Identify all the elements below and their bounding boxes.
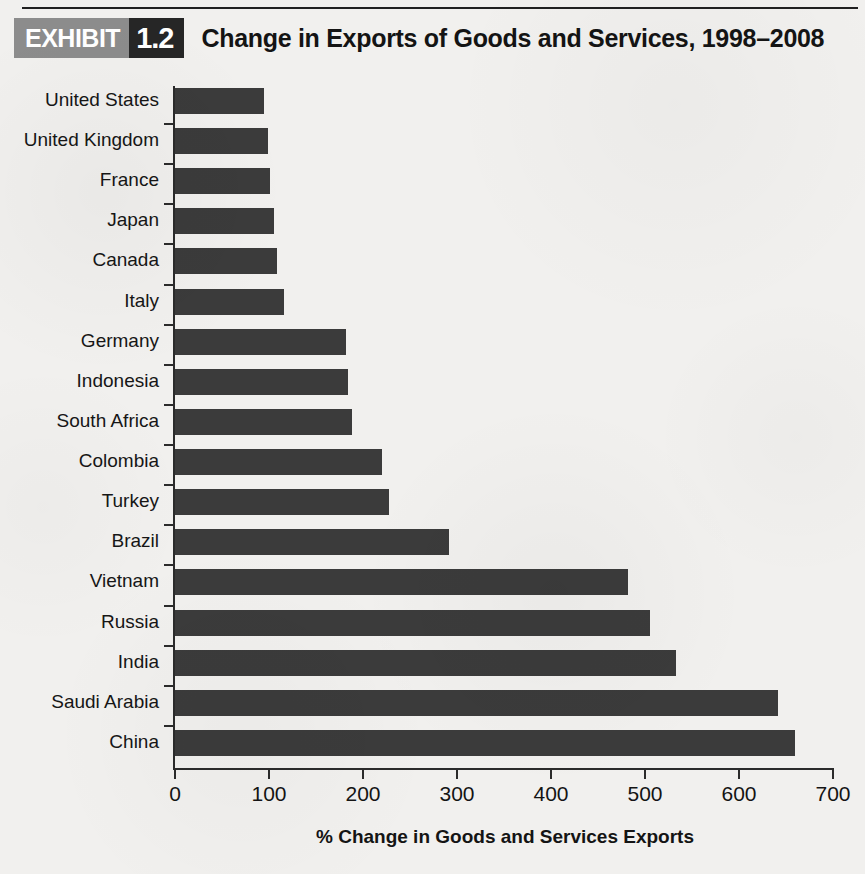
x-axis-tick bbox=[268, 768, 270, 779]
y-axis-tick bbox=[164, 484, 175, 486]
y-axis-label: France bbox=[100, 167, 159, 193]
exhibit-badge: EXHIBIT 1.2 bbox=[14, 18, 184, 58]
x-axis-tick-label: 700 bbox=[815, 782, 850, 806]
y-axis-label: Canada bbox=[92, 247, 159, 273]
y-axis-label: Russia bbox=[101, 609, 159, 635]
bar-row: United States bbox=[175, 86, 833, 126]
bar bbox=[175, 730, 795, 756]
bar-series: United StatesUnited KingdomFranceJapanCa… bbox=[175, 86, 833, 768]
x-axis-tick bbox=[738, 768, 740, 779]
chart-area: United StatesUnited KingdomFranceJapanCa… bbox=[0, 82, 865, 782]
y-axis-tick bbox=[164, 163, 175, 165]
y-axis-tick bbox=[164, 364, 175, 366]
bar-row: Germany bbox=[175, 327, 833, 367]
bar-row: South Africa bbox=[175, 407, 833, 447]
x-axis-tick-label: 100 bbox=[251, 782, 286, 806]
y-axis-label: South Africa bbox=[57, 408, 159, 434]
y-axis-tick bbox=[164, 685, 175, 687]
bar bbox=[175, 409, 352, 435]
exhibit-header: EXHIBIT 1.2 Change in Exports of Goods a… bbox=[14, 18, 824, 58]
y-axis-label: Japan bbox=[107, 207, 159, 233]
bar bbox=[175, 208, 274, 234]
bar bbox=[175, 369, 348, 395]
x-axis-tick bbox=[550, 768, 552, 779]
top-rule-divider bbox=[22, 7, 858, 9]
bar-row: Saudi Arabia bbox=[175, 688, 833, 728]
bar bbox=[175, 489, 389, 515]
y-axis-tick bbox=[164, 645, 175, 647]
y-axis-label: Brazil bbox=[111, 528, 159, 554]
y-axis-tick bbox=[164, 725, 175, 727]
x-axis-tick bbox=[362, 768, 364, 779]
y-axis-tick bbox=[164, 203, 175, 205]
bar bbox=[175, 650, 676, 676]
bar-row: United Kingdom bbox=[175, 126, 833, 166]
bar bbox=[175, 329, 346, 355]
bar bbox=[175, 128, 268, 154]
x-axis-tick-label: 300 bbox=[439, 782, 474, 806]
y-axis-label: Italy bbox=[124, 288, 159, 314]
y-axis-label: Turkey bbox=[102, 488, 159, 514]
x-axis-line bbox=[173, 768, 833, 770]
bar-row: Vietnam bbox=[175, 567, 833, 607]
y-axis-tick bbox=[164, 605, 175, 607]
y-axis-tick bbox=[164, 123, 175, 125]
bar bbox=[175, 529, 449, 555]
y-axis-label: India bbox=[118, 649, 159, 675]
bar-row: France bbox=[175, 166, 833, 206]
bar bbox=[175, 168, 270, 194]
bar bbox=[175, 248, 277, 274]
bar-row: Colombia bbox=[175, 447, 833, 487]
x-axis-tick bbox=[644, 768, 646, 779]
bar bbox=[175, 690, 778, 716]
x-axis-tick-label: 500 bbox=[627, 782, 662, 806]
plot-region: United StatesUnited KingdomFranceJapanCa… bbox=[175, 86, 833, 768]
x-axis-tick-label: 200 bbox=[345, 782, 380, 806]
y-axis-label: Indonesia bbox=[77, 368, 159, 394]
y-axis-label: Colombia bbox=[79, 448, 159, 474]
bar-row: Indonesia bbox=[175, 367, 833, 407]
y-axis-label: United States bbox=[45, 87, 159, 113]
y-axis-tick bbox=[164, 284, 175, 286]
bar-row: Japan bbox=[175, 206, 833, 246]
x-axis-tick bbox=[456, 768, 458, 779]
y-axis-tick bbox=[164, 404, 175, 406]
bar-row: Italy bbox=[175, 287, 833, 327]
y-axis-label: China bbox=[109, 729, 159, 755]
bar bbox=[175, 610, 650, 636]
y-axis-label: Saudi Arabia bbox=[51, 689, 159, 715]
exhibit-badge-number: 1.2 bbox=[129, 18, 184, 58]
y-axis-label: Vietnam bbox=[90, 568, 159, 594]
bar bbox=[175, 289, 284, 315]
bar bbox=[175, 569, 628, 595]
y-axis-label: United Kingdom bbox=[24, 127, 159, 153]
y-axis-tick bbox=[164, 324, 175, 326]
bar-row: Turkey bbox=[175, 487, 833, 527]
x-axis-tick bbox=[832, 768, 834, 779]
y-axis-tick bbox=[164, 564, 175, 566]
bar-row: China bbox=[175, 728, 833, 768]
x-axis-tick bbox=[174, 768, 176, 779]
y-axis-tick bbox=[164, 243, 175, 245]
x-axis-tick-label: 400 bbox=[533, 782, 568, 806]
bar bbox=[175, 88, 264, 114]
y-axis-label: Germany bbox=[81, 328, 159, 354]
x-axis-title: % Change in Goods and Services Exports bbox=[175, 826, 835, 848]
bar-row: India bbox=[175, 648, 833, 688]
x-axis-tick-label: 0 bbox=[169, 782, 181, 806]
exhibit-badge-word: EXHIBIT bbox=[14, 18, 129, 58]
x-axis-tick-label: 600 bbox=[721, 782, 756, 806]
bar bbox=[175, 449, 382, 475]
y-axis-tick bbox=[164, 444, 175, 446]
bar-row: Russia bbox=[175, 608, 833, 648]
exhibit-title: Change in Exports of Goods and Services,… bbox=[184, 18, 824, 58]
y-axis-tick bbox=[164, 524, 175, 526]
bar-row: Brazil bbox=[175, 527, 833, 567]
bar-row: Canada bbox=[175, 246, 833, 286]
